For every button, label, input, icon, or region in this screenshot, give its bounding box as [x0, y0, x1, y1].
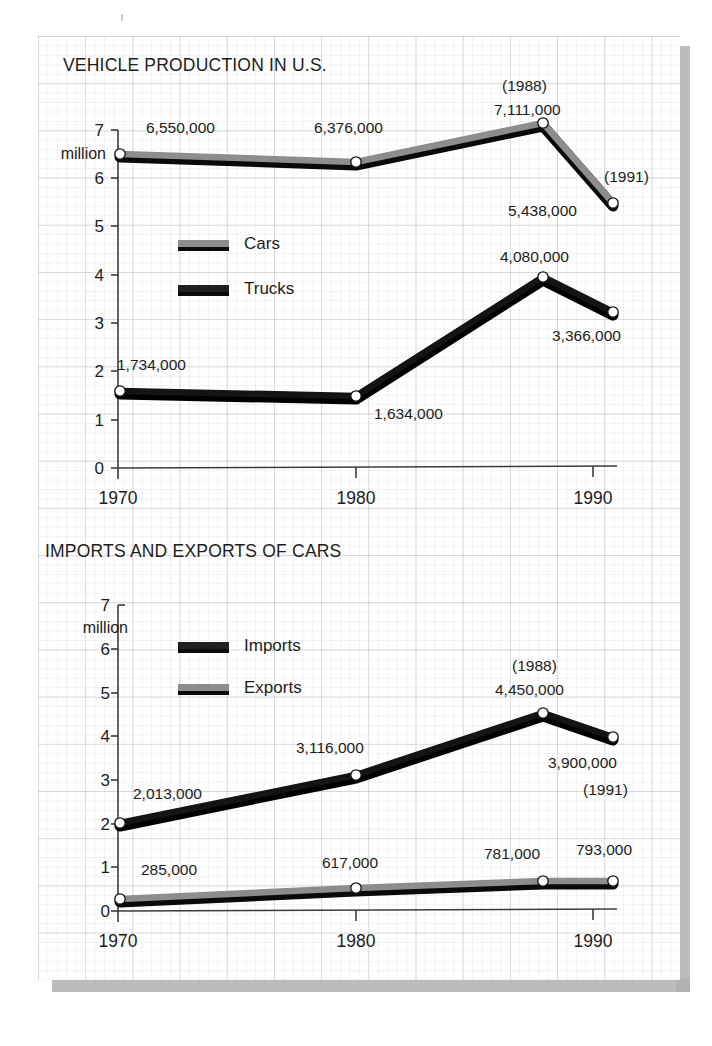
data-point-cars-1980 — [351, 157, 361, 167]
series-imports — [115, 708, 618, 828]
data-point-trucks-1991 — [608, 307, 618, 317]
label-imports-1980: 3,116,000 — [296, 739, 364, 756]
y2-axis-unit-label: million — [83, 619, 128, 636]
label-trucks-1991: 3,366,000 — [552, 327, 621, 344]
label-exports-1970: 285,000 — [141, 861, 197, 878]
label-imports-1970: 2,013,000 — [133, 785, 202, 802]
data-point-trucks-1980 — [351, 391, 361, 401]
y-tick-label-7: 7 — [95, 121, 104, 140]
label-imports-1988: 4,450,000 — [495, 681, 564, 698]
x-axis-line — [118, 466, 617, 468]
label-cars-1991: 5,438,000 — [508, 202, 577, 219]
page-shadow-bottom — [52, 978, 690, 992]
y-tick-label-6: 6 — [95, 169, 104, 188]
x-axis-line-2 — [118, 909, 617, 911]
y-tick-label-2: 2 — [95, 362, 104, 381]
y2-tick-label-1: 1 — [101, 858, 110, 877]
data-point-imports-1988 — [538, 708, 548, 718]
label-cars-1980: 6,376,000 — [314, 119, 383, 136]
label-year-1991: (1991) — [604, 168, 649, 185]
y-tick-label-1: 1 — [95, 411, 104, 430]
x-tick-label-1990: 1990 — [574, 488, 613, 508]
x2-tick-label-1980: 1980 — [337, 931, 376, 951]
y2-tick-label-5: 5 — [101, 684, 110, 703]
legend-swatch-imports — [178, 642, 229, 653]
legend-imports-exports: Imports Exports — [178, 636, 302, 697]
y-tick-label-0: 0 — [95, 459, 104, 478]
legend-label-exports: Exports — [244, 678, 302, 697]
legend-label-cars: Cars — [244, 234, 280, 253]
data-point-exports-1970 — [115, 894, 125, 904]
series-exports — [115, 876, 618, 904]
data-point-exports-1988 — [538, 876, 548, 886]
label-exports-1980: 617,000 — [322, 854, 378, 871]
x-tick-label-1970: 1970 — [99, 488, 138, 508]
y-tick-label-5: 5 — [95, 217, 104, 236]
vehicle-production-plot: 7 6 5 4 3 2 1 0 million 1970 1980 1990 — [0, 0, 712, 523]
data-point-cars-1988 — [538, 118, 548, 128]
label-exports-1988: 781,000 — [484, 845, 540, 862]
chart-vehicle-production: VEHICLE PRODUCTION IN U.S. 7 6 5 4 3 — [0, 0, 712, 523]
label-cars-1988: 7,111,000 — [494, 101, 561, 118]
y2-tick-label-3: 3 — [101, 771, 110, 790]
y-tick-label-4: 4 — [95, 266, 104, 285]
label-trucks-1988: 4,080,000 — [500, 248, 569, 265]
data-point-cars-1970 — [115, 149, 125, 159]
scanned-page: VEHICLE PRODUCTION IN U.S. 7 6 5 4 3 — [0, 0, 712, 1046]
y2-tick-label-0: 0 — [101, 902, 110, 921]
data-point-imports-1980 — [351, 770, 361, 780]
legend-vehicle-production: Cars Trucks — [178, 234, 294, 298]
y2-tick-label-7: 7 — [101, 596, 110, 615]
label-year2-1991: (1991) — [583, 781, 628, 798]
x2-tick-label-1990: 1990 — [574, 931, 613, 951]
data-point-exports-1991 — [608, 876, 618, 886]
chart-imports-exports: IMPORTS AND EXPORTS OF CARS 7 6 5 4 3 2 — [0, 523, 712, 973]
legend-label-imports: Imports — [244, 636, 301, 655]
imports-exports-plot: 7 6 5 4 3 2 1 0 million 1970 1980 1990 — [0, 523, 712, 973]
label-exports-1991: 793,000 — [576, 841, 632, 858]
label-cars-1970: 6,550,000 — [146, 119, 215, 136]
y-axis-unit-label: million — [61, 145, 106, 162]
x-tick-label-1980: 1980 — [337, 488, 376, 508]
data-point-imports-1991 — [608, 732, 618, 742]
x2-tick-label-1970: 1970 — [99, 931, 138, 951]
y2-tick-label-2: 2 — [101, 815, 110, 834]
legend-swatch-trucks — [178, 285, 229, 296]
data-point-cars-1991 — [608, 198, 618, 208]
label-trucks-1980: 1,634,000 — [374, 405, 443, 422]
legend-swatch-cars — [178, 240, 229, 251]
y2-tick-label-4: 4 — [101, 727, 110, 746]
legend-label-trucks: Trucks — [244, 279, 294, 298]
label-year-1988: (1988) — [502, 77, 547, 94]
data-point-exports-1980 — [351, 883, 361, 893]
legend-swatch-exports — [178, 684, 229, 695]
data-point-trucks-1970 — [115, 386, 125, 396]
y-tick-label-3: 3 — [95, 314, 104, 333]
y-axis-ticks — [111, 130, 118, 468]
label-trucks-1970: 1,734,000 — [117, 356, 186, 373]
y2-tick-label-6: 6 — [101, 640, 110, 659]
label-imports-1991: 3,900,000 — [548, 754, 617, 771]
data-point-trucks-1988 — [538, 272, 548, 282]
data-point-imports-1970 — [115, 818, 125, 828]
label-year2-1988: (1988) — [512, 657, 557, 674]
